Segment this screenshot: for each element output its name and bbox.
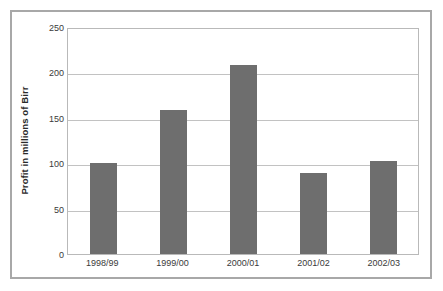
chart-figure: Profit in millions of Birr 0501001502002… [0,0,443,291]
x-axis-tick-label: 1998/99 [67,258,137,274]
y-axis-tick-label: 100 [36,159,64,169]
x-axis-tick-label: 2000/01 [208,258,278,274]
x-axis-tick-label: 2001/02 [278,258,348,274]
x-axis-tick-label: 2002/03 [349,258,419,274]
bar[interactable] [370,161,397,254]
y-axis-tick-label: 250 [36,23,64,33]
x-axis-tick-label: 1999/00 [137,258,207,274]
y-axis-tick-label: 0 [36,250,64,260]
y-axis-tick-label: 150 [36,114,64,124]
plot-area [67,28,419,255]
bar-slot [208,29,278,254]
bar[interactable] [300,173,327,254]
bar[interactable] [160,110,187,254]
y-axis-tick-label: 200 [36,68,64,78]
bar-slot [68,29,138,254]
bar-slot [278,29,348,254]
y-axis-title: Profit in millions of Birr [14,45,34,235]
bar[interactable] [230,65,257,254]
y-axis-title-text: Profit in millions of Birr [19,86,30,194]
bar-series [68,29,418,254]
bar-slot [348,29,418,254]
bar[interactable] [90,163,117,254]
bar-slot [138,29,208,254]
y-axis-tick-label: 50 [36,205,64,215]
x-axis-tick-labels: 1998/991999/002000/012001/022002/03 [67,258,419,274]
y-axis-tick-labels: 050100150200250 [36,28,64,255]
